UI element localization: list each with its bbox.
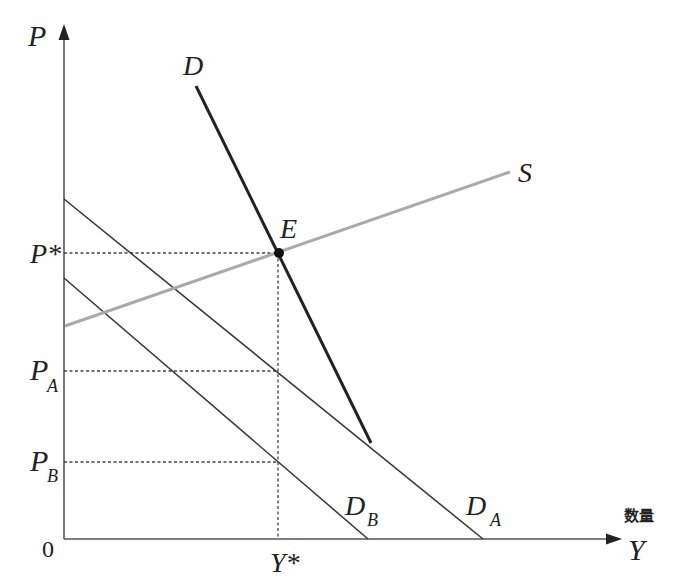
demand-da-sub: A [489,510,502,530]
curves [64,86,510,539]
p-b-main: P [29,444,48,477]
equilibrium-point [274,248,284,258]
supply-demand-diagram: P Y 数量 0 P* P A P B Y* D S E D A D B [0,0,680,587]
y-axis-arrow-icon [59,24,70,40]
demand-da-label: D A [465,490,502,530]
p-a-sub: A [46,376,59,396]
p-b-label: P B [29,444,58,486]
supply-s-label: S [518,157,532,188]
demand-d-label: D [182,50,203,81]
p-a-main: P [29,353,48,386]
p-b-sub: B [47,466,58,486]
demand-curve-a [64,199,483,539]
demand-curve-d [196,86,371,443]
x-axis-arrow-icon [606,534,622,545]
p-star-label: P* [29,238,61,269]
demand-db-main: D [344,490,365,521]
demand-db-label: D B [344,490,378,530]
guide-lines [64,253,279,539]
x-axis-label-cn: 数量 [624,507,654,525]
p-a-label: P A [29,353,59,396]
y-star-label: Y* [270,547,300,578]
x-axis-label: Y [628,533,648,566]
demand-da-main: D [465,490,486,521]
y-axis-label: P [27,19,46,52]
axes [59,24,623,545]
equilibrium-e-label: E [279,213,297,244]
demand-db-sub: B [367,510,378,530]
supply-curve [65,172,510,326]
origin-label: 0 [42,536,54,562]
